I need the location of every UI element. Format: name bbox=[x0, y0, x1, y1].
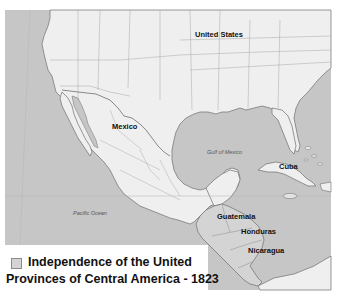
legend-swatch bbox=[11, 258, 22, 269]
label-united-states: United States bbox=[195, 30, 243, 39]
label-pacific-ocean: Pacific Ocean bbox=[73, 210, 107, 216]
legend: Independence of the United Provinces of … bbox=[0, 245, 208, 298]
label-guatemala: Guatemala bbox=[217, 212, 255, 221]
label-gulf-of-mexico: Gulf of Mexico bbox=[207, 149, 242, 155]
legend-title-line1: Independence of the United bbox=[28, 255, 192, 269]
label-mexico: Mexico bbox=[112, 122, 137, 131]
label-nicaragua: Nicaragua bbox=[248, 246, 284, 255]
label-cuba: Cuba bbox=[279, 162, 298, 171]
legend-title-line2: Provinces of Central America - 1823 bbox=[6, 272, 219, 286]
label-honduras: Honduras bbox=[241, 227, 276, 236]
